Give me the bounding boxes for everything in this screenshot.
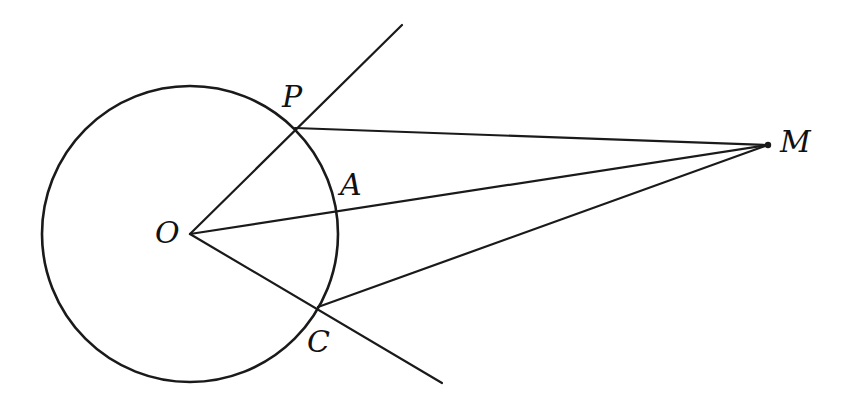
- label-c: C: [307, 327, 330, 357]
- ray-oc: [190, 234, 442, 383]
- segment-cm: [318, 145, 768, 307]
- label-p: P: [282, 82, 302, 112]
- label-a: A: [340, 170, 362, 200]
- point-m-dot: [765, 142, 771, 148]
- segment-om: [190, 145, 768, 234]
- label-m: M: [780, 127, 811, 157]
- geometry-diagram: [0, 0, 847, 409]
- ray-op: [190, 25, 402, 234]
- label-o: O: [155, 218, 180, 248]
- segment-pm: [295, 128, 768, 145]
